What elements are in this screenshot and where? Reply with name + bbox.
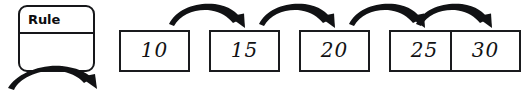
number-box[interactable]: 20 bbox=[299, 30, 370, 72]
rule-box[interactable]: Rule bbox=[18, 5, 95, 72]
sequence-arrow-icon bbox=[259, 4, 335, 28]
rule-box-header: Rule bbox=[20, 7, 93, 34]
number-box-value: 30 bbox=[472, 40, 499, 60]
number-box-value: 20 bbox=[321, 40, 348, 60]
number-box[interactable]: 30 bbox=[450, 30, 521, 72]
rule-box-answer-area[interactable] bbox=[20, 34, 93, 70]
worksheet-canvas: Rule 10 15 20 25 30 bbox=[0, 0, 529, 93]
number-box-value: 10 bbox=[141, 40, 168, 60]
number-box[interactable]: 15 bbox=[209, 30, 280, 72]
number-box[interactable]: 10 bbox=[119, 30, 190, 72]
sequence-arrow-icon bbox=[416, 4, 492, 28]
sequence-arrow-icon bbox=[349, 4, 425, 28]
rule-label: Rule bbox=[20, 13, 60, 26]
sequence-arrow-icon bbox=[169, 4, 245, 28]
number-box-value: 15 bbox=[231, 40, 258, 60]
number-box-value: 25 bbox=[411, 40, 438, 60]
